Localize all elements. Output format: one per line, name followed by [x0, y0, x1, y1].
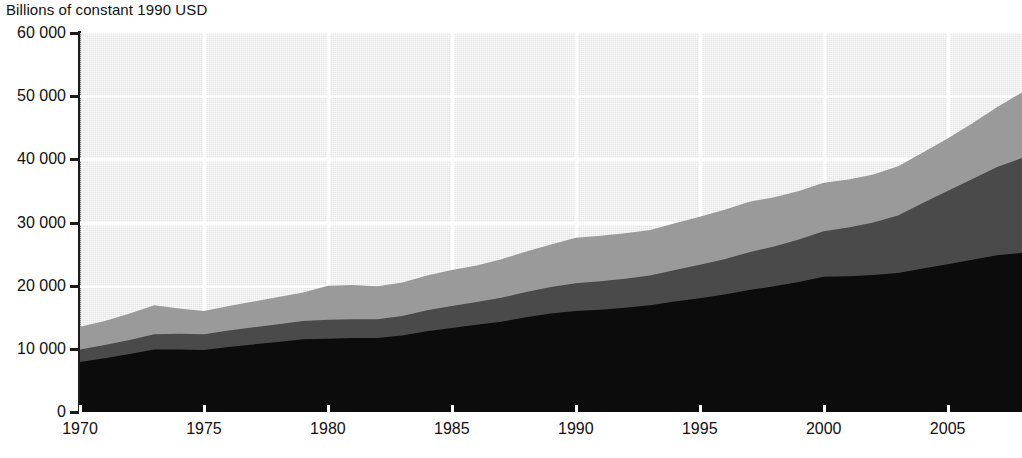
x-axis-tick [823, 405, 826, 414]
x-axis-tick [327, 405, 330, 414]
y-axis-label: 40 000 [0, 151, 66, 167]
x-axis-tick [699, 405, 702, 414]
y-axis-label: 20 000 [0, 278, 66, 294]
y-axis-tick [70, 285, 79, 288]
y-axis-label: 50 000 [0, 88, 66, 104]
x-axis-label: 1975 [186, 420, 222, 438]
x-axis-tick [451, 405, 454, 414]
x-axis-label: 2000 [806, 420, 842, 438]
x-axis-label: 1990 [558, 420, 594, 438]
y-axis-tick [70, 411, 79, 414]
x-axis-tick [203, 405, 206, 414]
y-axis-label: 30 000 [0, 215, 66, 231]
y-axis-tick [70, 95, 79, 98]
y-axis-label: 10 000 [0, 341, 66, 357]
y-axis-label: 0 [0, 404, 66, 420]
y-axis-tick [70, 222, 79, 225]
y-axis: 60 00050 00040 00030 00020 00010 0000 [0, 0, 66, 458]
y-axis-tick [70, 348, 79, 351]
x-axis-tick [79, 405, 82, 414]
x-axis-label: 1995 [682, 420, 718, 438]
stacked-areas [80, 33, 1022, 412]
x-axis-label: 1980 [310, 420, 346, 438]
area-svg [80, 33, 1022, 412]
x-axis-label: 2005 [930, 420, 966, 438]
plot-area [80, 33, 1022, 412]
y-axis-tick [70, 158, 79, 161]
x-axis-label: 1985 [434, 420, 470, 438]
y-axis-label: 60 000 [0, 25, 66, 41]
x-axis-tick [575, 405, 578, 414]
y-axis-tick [70, 32, 79, 35]
x-axis-tick [947, 405, 950, 414]
chart-root: Billions of constant 1990 USD 60 00050 0… [0, 0, 1022, 458]
x-axis-label: 1970 [62, 420, 98, 438]
